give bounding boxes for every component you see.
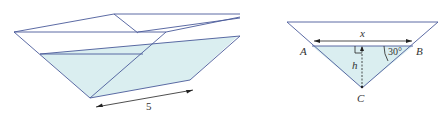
vertex-c-label: C: [357, 92, 365, 104]
trough-figure: [14, 14, 240, 98]
length-label: 5: [146, 100, 152, 112]
vertex-a-label: A: [299, 45, 307, 57]
diagram-canvas: 5 x h 30° A B C: [0, 0, 447, 115]
height-label: h: [352, 59, 358, 71]
width-dimension: [314, 39, 412, 43]
vertex-b-label: B: [416, 45, 423, 57]
angle-label: 30°: [388, 46, 402, 57]
width-label: x: [359, 27, 365, 39]
